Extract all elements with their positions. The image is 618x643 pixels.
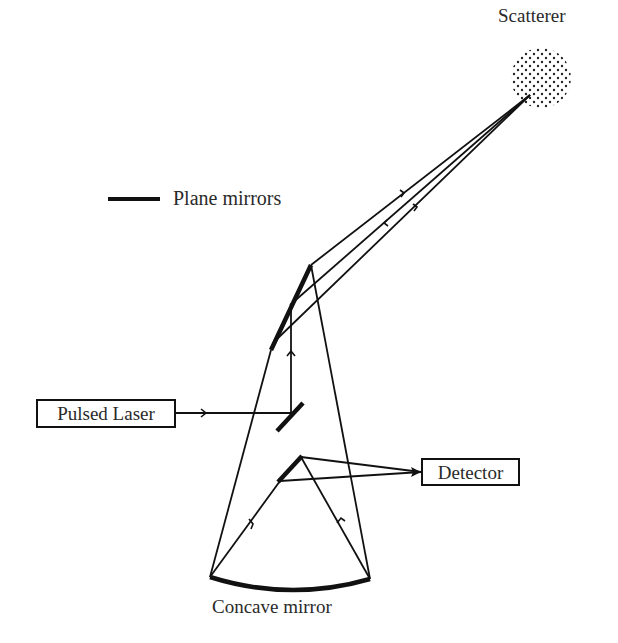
scatter-beams bbox=[276, 95, 530, 340]
focus-arrow-icons bbox=[249, 518, 345, 529]
scatterer-icon bbox=[511, 48, 571, 108]
concave-mirror-label: Concave mirror bbox=[212, 597, 332, 616]
plane-mirror-laser bbox=[277, 403, 303, 431]
optical-diagram bbox=[0, 0, 618, 643]
scatterer-label: Scatterer bbox=[498, 6, 566, 25]
detector-label: Detector bbox=[438, 463, 503, 482]
laser-arrow-icons bbox=[201, 351, 295, 417]
detector-box: Detector bbox=[421, 458, 520, 486]
laser-beam bbox=[175, 305, 291, 413]
concave-mirror bbox=[210, 577, 370, 590]
pulsed-laser-label: Pulsed Laser bbox=[57, 404, 155, 423]
legend-plane-mirrors-label: Plane mirrors bbox=[173, 188, 281, 208]
focus-beams bbox=[210, 457, 421, 579]
plane-mirror-lower bbox=[278, 456, 302, 482]
pulsed-laser-box: Pulsed Laser bbox=[36, 399, 176, 428]
